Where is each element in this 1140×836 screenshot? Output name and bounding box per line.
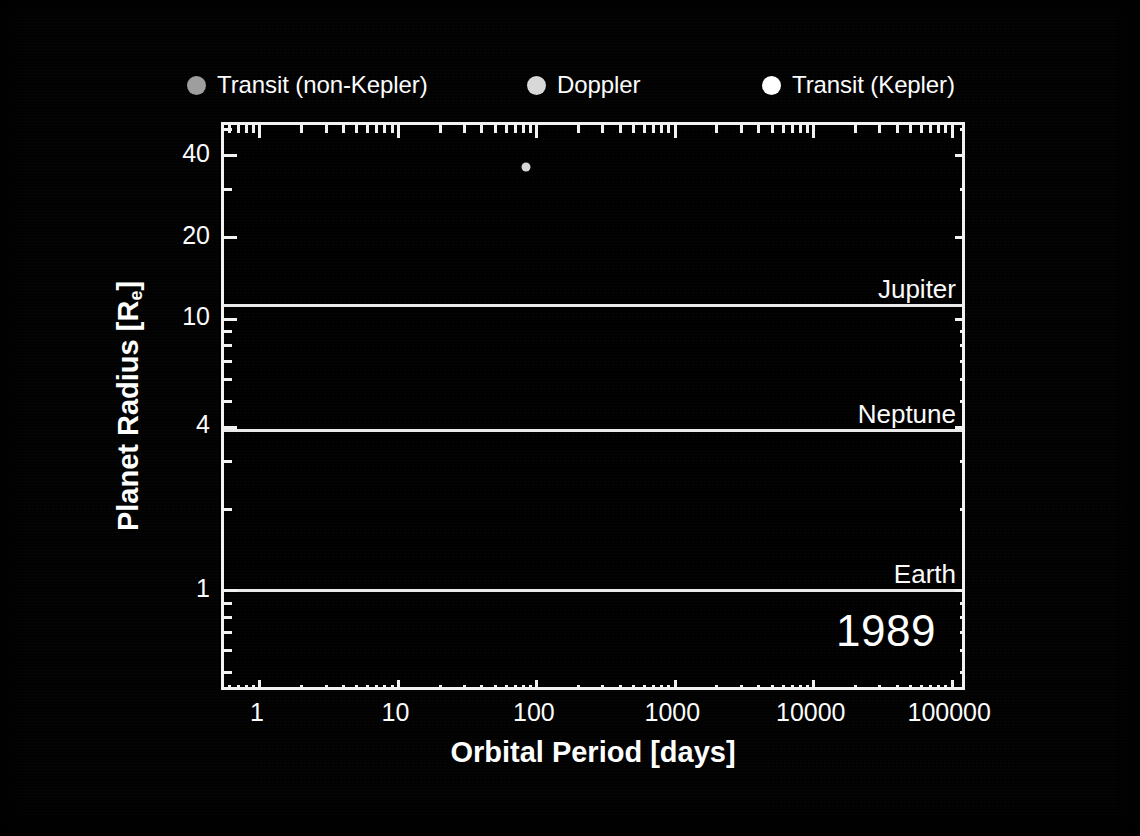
axis-tick	[300, 125, 303, 133]
axis-tick	[439, 685, 442, 687]
axis-tick	[463, 685, 466, 687]
axis-tick	[960, 602, 962, 605]
axis-tick	[342, 125, 345, 133]
legend-label: Doppler	[557, 73, 640, 97]
axis-tick	[791, 685, 794, 687]
axis-tick	[514, 125, 517, 133]
axis-tick	[799, 125, 802, 133]
axis-tick	[929, 125, 932, 133]
axis-tick	[529, 125, 532, 133]
axis-tick	[937, 125, 940, 133]
axis-tick	[224, 649, 232, 652]
reference-line-neptune	[224, 429, 962, 432]
axis-tick	[529, 685, 532, 687]
axis-tick	[740, 125, 743, 133]
axis-tick	[375, 125, 378, 133]
legend-entry-transit-non-kepler[interactable]: Transit (non-Kepler)	[187, 68, 428, 102]
axis-tick	[228, 685, 231, 687]
legend-label: Transit (non-Kepler)	[217, 73, 428, 97]
axis-tick	[325, 685, 328, 687]
axis-tick	[955, 589, 962, 592]
legend-entry-transit-kepler[interactable]: Transit (Kepler)	[762, 68, 955, 102]
axis-tick	[806, 685, 809, 687]
axis-tick	[960, 188, 962, 191]
axis-tick	[632, 125, 635, 133]
axis-tick	[237, 125, 240, 133]
axis-tick	[715, 685, 718, 687]
axis-tick	[955, 426, 962, 429]
axis-tick	[674, 680, 677, 687]
axis-tick	[366, 685, 369, 687]
axis-tick	[632, 685, 635, 687]
plot-area: JupiterNeptuneEarth 1989	[221, 122, 965, 690]
axis-tick	[667, 685, 670, 687]
axis-tick	[366, 125, 369, 133]
axis-tick	[383, 125, 386, 133]
axis-tick	[944, 125, 947, 133]
circle-marker-icon	[762, 76, 781, 95]
axis-tick	[782, 125, 785, 133]
axis-tick	[920, 685, 923, 687]
axis-tick	[245, 125, 248, 133]
x-tick-label: 1000	[645, 700, 701, 725]
x-tick-label: 10000	[776, 700, 846, 725]
axis-tick	[878, 125, 881, 133]
y-tick-label: 1	[196, 575, 210, 600]
axis-tick	[854, 685, 857, 687]
axis-tick	[909, 125, 912, 133]
axis-tick	[771, 125, 774, 133]
axis-tick	[619, 125, 622, 133]
axis-tick	[224, 378, 232, 381]
axis-tick	[674, 125, 677, 138]
axis-tick	[224, 460, 232, 463]
axis-tick	[960, 344, 962, 347]
x-axis-title: Orbital Period [days]	[221, 736, 965, 769]
y-tick-label: 20	[182, 222, 210, 247]
axis-tick	[224, 508, 232, 511]
axis-tick	[375, 685, 378, 687]
legend-entry-doppler[interactable]: Doppler	[527, 68, 640, 102]
axis-tick	[480, 685, 483, 687]
axis-tick	[854, 125, 857, 133]
axis-tick	[937, 685, 940, 687]
axis-tick	[514, 685, 517, 687]
y-axis-title-tail: ]	[112, 281, 144, 291]
axis-tick	[505, 125, 508, 133]
axis-tick	[960, 508, 962, 511]
axis-tick	[577, 685, 580, 687]
legend-label: Transit (Kepler)	[792, 73, 955, 97]
reference-label-neptune: Neptune	[858, 401, 956, 427]
axis-tick	[224, 602, 232, 605]
axis-tick	[643, 685, 646, 687]
axis-tick	[951, 125, 954, 138]
axis-tick	[245, 685, 248, 687]
data-point[interactable]	[522, 162, 531, 171]
axis-tick	[342, 685, 345, 687]
axis-tick	[480, 125, 483, 133]
y-axis-title-main: Planet Radius [R	[112, 301, 144, 531]
axis-tick	[951, 680, 954, 687]
axis-tick	[505, 685, 508, 687]
y-tick-label: 4	[196, 412, 210, 437]
axis-tick	[391, 125, 394, 133]
axis-tick	[237, 685, 240, 687]
screen-background: Transit (non-Kepler) Doppler Transit (Ke…	[0, 0, 1140, 836]
circle-marker-icon	[187, 76, 206, 95]
circle-marker-icon	[527, 76, 546, 95]
axis-tick	[383, 685, 386, 687]
year-annotation: 1989	[836, 609, 936, 653]
axis-tick	[391, 685, 394, 687]
x-tick-label: 1	[250, 700, 264, 725]
axis-tick	[224, 400, 232, 403]
axis-tick	[397, 680, 400, 687]
y-tick-label: 40	[182, 140, 210, 165]
axis-tick	[909, 685, 912, 687]
axis-tick	[494, 125, 497, 133]
axis-tick	[960, 649, 962, 652]
axis-tick	[799, 685, 802, 687]
y-tick-label: 10	[182, 304, 210, 329]
axis-tick	[224, 154, 237, 157]
axis-tick	[960, 378, 962, 381]
axis-tick	[878, 685, 881, 687]
axis-tick	[224, 318, 237, 321]
